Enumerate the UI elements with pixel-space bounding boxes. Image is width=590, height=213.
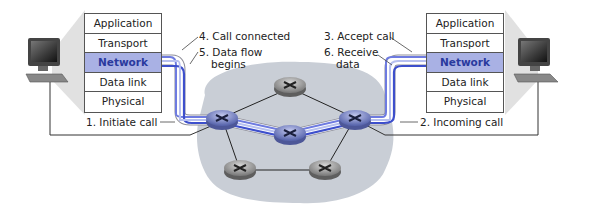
label-call-connected: 4. Call connected: [199, 30, 290, 43]
router-icon: [309, 160, 341, 180]
layer-application: Application: [85, 14, 161, 34]
router-icon: [224, 160, 256, 180]
label-accept-call: 3. Accept call: [324, 30, 395, 43]
router-icon: [274, 77, 306, 97]
layer-data-link: Data link: [427, 73, 503, 93]
label-initiate-call: 1. Initiate call: [86, 116, 157, 129]
layer-transport: Transport: [85, 34, 161, 54]
router-icon: [206, 110, 238, 130]
layer-network: Network: [85, 53, 161, 73]
router-icon: [274, 125, 306, 145]
right-computer-icon: [514, 38, 558, 82]
label-receive-data: data: [336, 58, 360, 71]
layer-network: Network: [427, 53, 503, 73]
label-data-flow-begins: begins: [211, 58, 246, 71]
layer-data-link: Data link: [85, 73, 161, 93]
layer-transport: Transport: [427, 34, 503, 54]
left-protocol-stack: Application Transport Network Data link …: [84, 13, 162, 113]
layer-physical: Physical: [427, 92, 503, 112]
layer-application: Application: [427, 14, 503, 34]
label-incoming-call: 2. Incoming call: [420, 116, 503, 129]
router-icon: [339, 110, 371, 130]
right-protocol-stack: Application Transport Network Data link …: [426, 13, 504, 113]
layer-physical: Physical: [85, 92, 161, 112]
